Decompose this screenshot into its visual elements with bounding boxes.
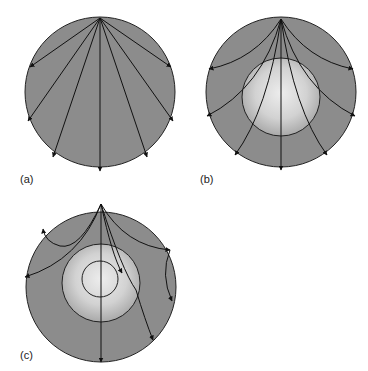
panel-b-label: (b): [200, 173, 213, 185]
panel-a: [25, 17, 175, 171]
figure-canvas: [0, 0, 368, 371]
panel-a-label: (a): [20, 173, 33, 185]
panel-c-label: (c): [20, 349, 33, 361]
panel-b: [206, 17, 356, 170]
panel-c: [25, 204, 176, 362]
